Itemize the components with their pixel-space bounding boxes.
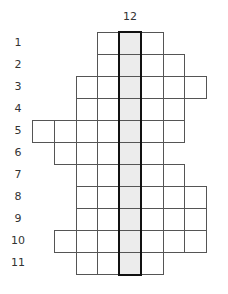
row-label: 4 <box>4 98 32 120</box>
grid-cell[interactable] <box>97 208 120 231</box>
key-grid-cell[interactable] <box>119 54 142 77</box>
grid-cell[interactable] <box>76 230 99 253</box>
grid-cell[interactable] <box>76 142 99 165</box>
grid-cell[interactable] <box>141 76 164 99</box>
grid-cell[interactable] <box>97 76 120 99</box>
key-grid-cell[interactable] <box>119 142 142 165</box>
grid-cell[interactable] <box>184 208 207 231</box>
grid-cell[interactable] <box>163 54 186 77</box>
key-grid-cell[interactable] <box>119 32 142 55</box>
grid-cell[interactable] <box>141 230 164 253</box>
grid-cell[interactable] <box>163 76 186 99</box>
row-label: 6 <box>4 142 32 164</box>
grid-cell[interactable] <box>163 230 186 253</box>
grid-cell[interactable] <box>97 164 120 187</box>
grid-cell[interactable] <box>163 164 186 187</box>
grid-cell[interactable] <box>163 208 186 231</box>
row-label: 7 <box>4 164 32 186</box>
grid-cell[interactable] <box>54 120 77 143</box>
grid-cell[interactable] <box>141 208 164 231</box>
row-label: 1 <box>4 32 32 54</box>
grid-cell[interactable] <box>141 142 164 165</box>
grid-cell[interactable] <box>97 230 120 253</box>
grid-cell[interactable] <box>76 208 99 231</box>
key-grid-cell[interactable] <box>119 186 142 209</box>
grid-cell[interactable] <box>97 98 120 121</box>
grid-cell[interactable] <box>163 186 186 209</box>
row-label: 11 <box>4 252 32 274</box>
row-label: 8 <box>4 186 32 208</box>
row-label: 9 <box>4 208 32 230</box>
row-label: 2 <box>4 54 32 76</box>
grid-cell[interactable] <box>97 54 120 77</box>
grid-cell[interactable] <box>97 32 120 55</box>
grid-cell[interactable] <box>76 164 99 187</box>
grid-cell[interactable] <box>97 142 120 165</box>
grid-cell[interactable] <box>184 230 207 253</box>
grid-cell[interactable] <box>184 186 207 209</box>
grid-cell[interactable] <box>54 142 77 165</box>
grid-cell[interactable] <box>141 120 164 143</box>
grid-cell[interactable] <box>141 186 164 209</box>
grid-cell[interactable] <box>163 98 186 121</box>
row-label: 10 <box>4 230 32 252</box>
grid-cell[interactable] <box>32 120 55 143</box>
key-column-clue-number: 12 <box>119 10 141 23</box>
grid-cell[interactable] <box>141 54 164 77</box>
grid-cell[interactable] <box>76 252 99 275</box>
grid-cell[interactable] <box>184 76 207 99</box>
grid-cell[interactable] <box>76 98 99 121</box>
key-grid-cell[interactable] <box>119 208 142 231</box>
grid-cell[interactable] <box>76 120 99 143</box>
grid-cell[interactable] <box>141 164 164 187</box>
grid-cell[interactable] <box>76 76 99 99</box>
grid-cell[interactable] <box>97 252 120 275</box>
grid-cell[interactable] <box>76 186 99 209</box>
grid-cell[interactable] <box>97 120 120 143</box>
key-grid-cell[interactable] <box>119 120 142 143</box>
grid-cell[interactable] <box>163 120 186 143</box>
key-grid-cell[interactable] <box>119 76 142 99</box>
grid-cell[interactable] <box>141 252 164 275</box>
key-grid-cell[interactable] <box>119 252 142 275</box>
grid-cell[interactable] <box>54 230 77 253</box>
grid-cell[interactable] <box>141 98 164 121</box>
grid-cell[interactable] <box>141 32 164 55</box>
grid-cell[interactable] <box>97 186 120 209</box>
key-grid-cell[interactable] <box>119 230 142 253</box>
row-label: 5 <box>4 120 32 142</box>
key-grid-cell[interactable] <box>119 164 142 187</box>
key-grid-cell[interactable] <box>119 98 142 121</box>
row-label: 3 <box>4 76 32 98</box>
